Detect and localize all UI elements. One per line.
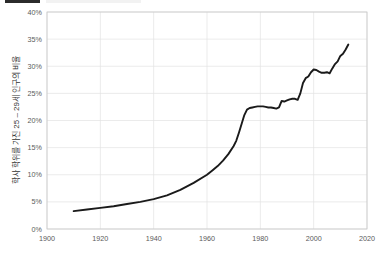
y-tick-label: 20% <box>28 116 43 125</box>
x-tick-label: 1960 <box>199 234 215 243</box>
x-tick-label: 2000 <box>306 234 322 243</box>
y-tick-label: 0% <box>32 225 43 234</box>
x-tick-label: 1920 <box>92 234 108 243</box>
y-tick-label: 5% <box>32 197 43 206</box>
y-axis-tick-labels: 0%5%10%15%20%25%30%35%40% <box>28 8 43 234</box>
y-tick-label: 30% <box>28 62 43 71</box>
y-tick-label: 40% <box>28 8 43 17</box>
line-chart: 0%5%10%15%20%25%30%35%40% 19001920194019… <box>0 0 384 261</box>
x-tick-label: 1980 <box>252 234 268 243</box>
x-tick-label: 1900 <box>39 234 55 243</box>
x-tick-label: 1940 <box>146 234 162 243</box>
y-tick-label: 10% <box>28 170 43 179</box>
y-axis-title: 학사 학위를 가진 25 – 29세 인구의 비율 <box>11 56 21 185</box>
y-tick-label: 25% <box>28 89 43 98</box>
chart-figure: 0%5%10%15%20%25%30%35%40% 19001920194019… <box>0 0 384 261</box>
x-tick-label: 2020 <box>359 234 375 243</box>
y-tick-label: 15% <box>28 143 43 152</box>
x-axis-tick-labels: 1900192019401960198020002020 <box>39 234 375 243</box>
y-tick-label: 35% <box>28 35 43 44</box>
